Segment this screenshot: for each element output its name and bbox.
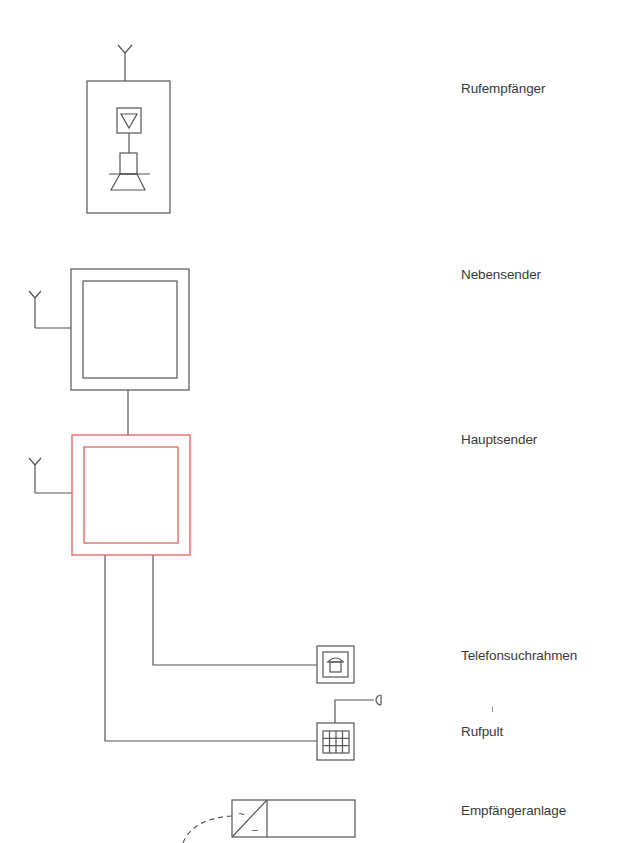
- secondary-transmitter: [29, 269, 189, 390]
- ac-symbol: ~: [238, 808, 244, 820]
- paging-console: [317, 695, 381, 760]
- telephone-paging-frame: [317, 646, 354, 683]
- system-diagram: ~ –: [0, 0, 624, 843]
- label-telefonsuchrahmen: Telefonsuchrahmen: [461, 648, 577, 663]
- label-rufpult: Rufpult: [461, 724, 503, 739]
- receiver-system: [183, 800, 355, 843]
- connector-line: [153, 555, 317, 665]
- dc-symbol: –: [252, 823, 259, 835]
- amplifier-icon: [117, 108, 141, 133]
- label-empfaengeranlage: Empfängeranlage: [461, 803, 566, 818]
- connector-line: [105, 555, 317, 741]
- keypad-icon: [323, 731, 349, 753]
- label-hauptsender: Hauptsender: [461, 432, 537, 447]
- antenna-icon: [29, 458, 72, 493]
- main-transmitter: [72, 435, 190, 555]
- microphone-icon: [376, 695, 381, 705]
- label-nebensender: Nebensender: [461, 267, 541, 282]
- dashed-signal-line: [183, 816, 232, 843]
- receiver-unit: [87, 45, 170, 213]
- antenna-icon: [118, 45, 132, 81]
- antenna-icon: [29, 291, 71, 328]
- label-rufempfaenger: Rufempfänger: [461, 81, 545, 96]
- speaker-icon: [109, 153, 150, 190]
- tick-mark: [492, 707, 493, 712]
- telephone-icon: [327, 658, 344, 672]
